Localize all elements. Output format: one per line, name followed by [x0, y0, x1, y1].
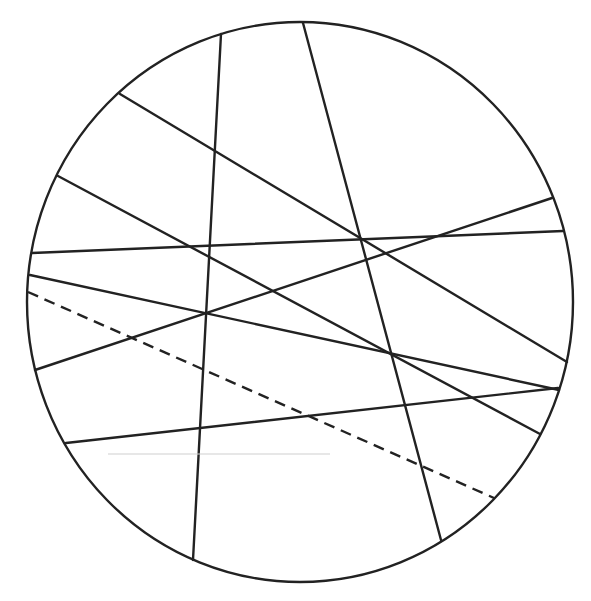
- chord-8: [66, 388, 558, 443]
- chord-2: [303, 23, 441, 540]
- chord-7: [35, 198, 552, 370]
- chord-1: [193, 34, 221, 560]
- chord-6: [30, 275, 559, 390]
- dashed-chord: [28, 292, 494, 498]
- chord-4: [58, 176, 540, 434]
- chord-3: [120, 94, 567, 362]
- chord-5: [32, 231, 563, 253]
- chords-group: [30, 23, 567, 560]
- diagram-canvas: [0, 0, 591, 601]
